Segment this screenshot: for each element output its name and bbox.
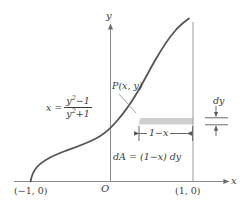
numerator-rest: −1 [76, 95, 90, 106]
area-strip [139, 118, 194, 125]
equation-lhs: x = [46, 103, 62, 113]
equation-fraction: y2−1 y2+1 [64, 96, 92, 119]
denominator-rest: +1 [76, 108, 90, 119]
dy-dimension [205, 106, 228, 136]
y-axis-label: y [106, 11, 112, 21]
curve-equation: x = y2−1 y2+1 [46, 96, 92, 119]
origin-label: O [101, 184, 109, 194]
dy-label: dy [213, 96, 224, 106]
point-callout-leader [119, 94, 136, 113]
diagram-svg [0, 0, 244, 210]
curve-point-label: P(x, y) [112, 81, 143, 91]
width-label: 1−x [147, 128, 170, 138]
equation-numerator: y2−1 [64, 96, 92, 107]
x-axis-label: x [231, 176, 237, 186]
right-asymptote-label: (1, 0) [175, 186, 201, 196]
area-element-label: dA = (1−x) dy [113, 152, 181, 162]
equation-denominator: y2+1 [64, 108, 92, 119]
figure-canvas: y x O (−1, 0) (1, 0) P(x, y) dy 1−x dA =… [0, 0, 244, 210]
left-intercept-label: (−1, 0) [14, 186, 48, 196]
